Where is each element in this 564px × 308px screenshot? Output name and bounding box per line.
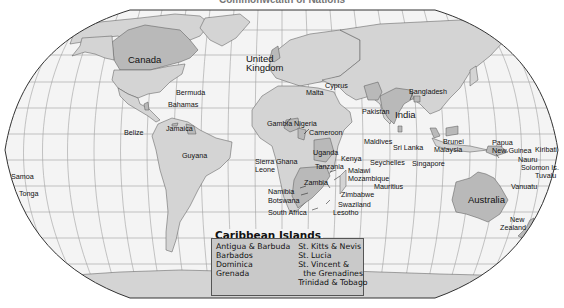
label-malaysia: Malaysia (434, 146, 462, 154)
label-gambia: Gambia (267, 120, 292, 128)
label-tuvalu: Tuvalu (535, 172, 556, 180)
label-botswana: Botswana (268, 197, 300, 205)
label-australia: Australia (468, 195, 505, 205)
label-tanzania: Tanzania (315, 163, 344, 171)
label-papua-new-guinea-line2: New Guinea (492, 147, 532, 155)
label-zambia: Zambia (304, 179, 328, 187)
caribbean-item: Antigua & Barbuda (216, 242, 290, 251)
label-jamaica: Jamaica (166, 125, 193, 133)
label-tonga: Tonga (19, 190, 39, 198)
label-kenya: Kenya (341, 155, 361, 163)
label-guyana: Guyana (182, 152, 207, 160)
label-bahamas: Bahamas (168, 101, 198, 109)
caribbean-item: the Grenadines (298, 269, 367, 278)
label-india: India (395, 110, 416, 120)
label-vanuatu: Vanuatu (511, 183, 537, 191)
land-sri-lanka (398, 126, 402, 132)
caribbean-islands-legend: Antigua & Barbuda Barbados Dominica Gren… (211, 238, 364, 296)
caribbean-item: St. Lucia (298, 251, 367, 260)
label-ghana: Ghana (276, 158, 298, 166)
label-zimbabwe: Zimbabwe (341, 191, 374, 199)
label-pakistan: Pakistan (362, 108, 390, 116)
label-uganda: Uganda (313, 149, 338, 157)
label-samoa: Samoa (11, 173, 34, 181)
label-lesotho: Lesotho (333, 209, 359, 217)
caribbean-item: Barbados (216, 251, 290, 260)
label-bangladesh: Bangladesh (409, 88, 447, 96)
caribbean-item: Trinidad & Tobago (298, 278, 367, 287)
label-united-kingdom-line2: Kingdom (246, 63, 284, 73)
caribbean-item: St. Vincent & (298, 260, 367, 269)
land-bangladesh (414, 96, 420, 102)
caribbean-column-2: St. Kitts & Nevis St. Lucia St. Vincent … (298, 242, 367, 292)
caribbean-column-1: Antigua & Barbuda Barbados Dominica Gren… (216, 242, 290, 292)
label-belize: Belize (124, 129, 144, 137)
label-bermuda: Bermuda (176, 89, 205, 97)
caribbean-item: St. Kitts & Nevis (298, 242, 367, 251)
caribbean-item: Dominica (216, 260, 290, 269)
label-sierra-leone-line2: Leone (255, 166, 275, 174)
label-south-africa: South Africa (268, 209, 307, 217)
label-maldives: Maldives (364, 138, 392, 146)
label-nigeria: Nigeria (294, 120, 317, 128)
label-mauritius: Mauritius (374, 183, 403, 191)
label-malta: Malta (306, 89, 324, 97)
label-cameroon: Cameroon (309, 129, 343, 137)
label-sri-lanka: Sri Lanka (393, 144, 423, 152)
label-singapore: Singapore (412, 160, 445, 168)
label-canada: Canada (128, 55, 161, 65)
label-namibia: Namibia (268, 188, 294, 196)
caribbean-item: Grenada (216, 269, 290, 278)
label-new-zealand-line2: Zealand (500, 224, 526, 232)
label-kiribati: Kiribati (535, 146, 557, 154)
label-seychelles: Seychelles (370, 159, 405, 167)
label-cyprus: Cyprus (325, 82, 348, 90)
